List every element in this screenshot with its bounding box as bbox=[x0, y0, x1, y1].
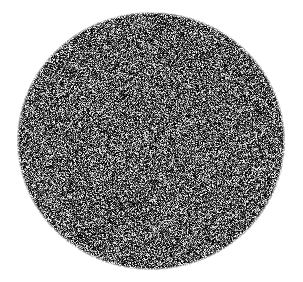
noise-disc-figure bbox=[0, 0, 303, 282]
noise-disc-canvas bbox=[0, 0, 303, 282]
